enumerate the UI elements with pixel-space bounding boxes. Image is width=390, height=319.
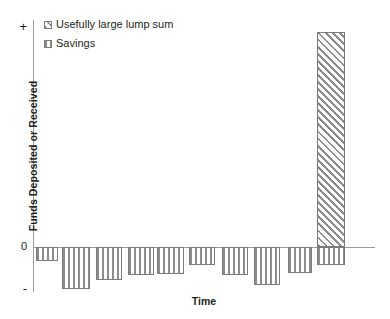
bar-savings: [222, 247, 248, 275]
bar-savings: [36, 247, 58, 261]
bar-savings: [62, 247, 90, 289]
bar-savings: [288, 247, 312, 273]
bar-savings: [96, 247, 122, 280]
bar-savings: [128, 247, 154, 275]
bar-lump-sum: [317, 32, 345, 247]
bars-layer: [0, 0, 390, 319]
bar-savings: [254, 247, 280, 285]
bar-savings: [157, 247, 184, 274]
chart-container: + 0 - Funds Deposited or Received Time U…: [0, 0, 390, 319]
bar-savings: [189, 247, 215, 265]
bar-savings: [317, 247, 345, 265]
